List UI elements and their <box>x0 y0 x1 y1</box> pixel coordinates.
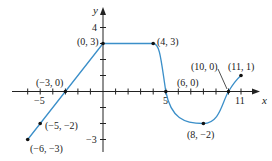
label-0-3: (0, 3) <box>77 36 99 48</box>
label-4-3: (4, 3) <box>157 36 179 48</box>
point-4-3 <box>151 42 155 46</box>
point-10-0 <box>227 90 231 94</box>
label-11-1: (11, 1) <box>228 61 254 73</box>
function-graph: −5 5 11 x 4 −3 y <box>0 0 272 161</box>
y-axis-label: y <box>92 4 98 16</box>
point-11-1 <box>239 74 243 78</box>
x-tick-label-11: 11 <box>235 95 245 106</box>
label-6-0: (6, 0) <box>177 77 199 89</box>
point-neg6-neg3 <box>26 138 30 142</box>
point-6-0 <box>164 90 168 94</box>
label-neg5-neg2: (−5, −2) <box>45 120 78 132</box>
x-axis-arrow-icon <box>252 89 260 95</box>
y-axis-arrow-icon <box>100 7 106 15</box>
x-axis-label: x <box>261 94 267 106</box>
graph-canvas: −5 5 11 x 4 −3 y <box>0 0 272 161</box>
label-neg6-neg3: (−6, −3) <box>30 143 63 155</box>
y-axis: 4 −3 y <box>86 4 106 152</box>
label-neg3-0: (−3, 0) <box>36 77 63 89</box>
point-8-neg2 <box>202 122 206 126</box>
point-neg3-0 <box>64 90 68 94</box>
point-0-3 <box>101 42 105 46</box>
y-tick-label-neg3: −3 <box>86 134 97 145</box>
point-neg5-neg2 <box>38 122 42 126</box>
x-tick-label-neg5: −5 <box>34 95 45 106</box>
y-tick-label-4: 4 <box>92 22 97 33</box>
leader-line-10-0 <box>218 69 227 89</box>
label-10-0: (10, 0) <box>191 61 218 73</box>
label-8-neg2: (8, −2) <box>187 129 214 141</box>
